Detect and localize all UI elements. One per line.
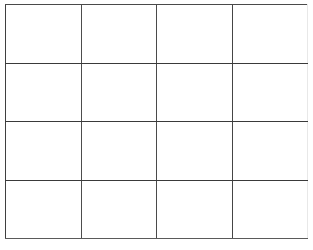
table-cell[interactable]: [232, 180, 308, 239]
table-cell-text: [82, 5, 157, 63]
table-cell[interactable]: [157, 5, 233, 64]
table-cell-text: [6, 181, 81, 239]
table-cell[interactable]: [157, 122, 233, 181]
table-row: [6, 180, 308, 239]
table-cell-text: [82, 122, 157, 180]
table-row: [6, 5, 308, 64]
table-cell[interactable]: [81, 122, 157, 181]
table-cell-text: [233, 122, 308, 180]
page-canvas: [0, 0, 313, 250]
table-cell-text: [233, 181, 308, 239]
table-cell[interactable]: [81, 63, 157, 122]
table-cell[interactable]: [157, 180, 233, 239]
blank-grid-table: [5, 4, 308, 239]
table-cell-text: [82, 181, 157, 239]
table-cell-text: [157, 122, 232, 180]
table-cell[interactable]: [232, 63, 308, 122]
table-cell[interactable]: [157, 63, 233, 122]
table-cell[interactable]: [6, 63, 82, 122]
table-row: [6, 63, 308, 122]
table-cell-text: [157, 64, 232, 122]
table-cell[interactable]: [232, 122, 308, 181]
table-cell[interactable]: [81, 180, 157, 239]
table-cell-text: [157, 181, 232, 239]
table-body: [6, 5, 308, 239]
table-cell[interactable]: [6, 5, 82, 64]
table-cell-text: [233, 5, 308, 63]
table-cell[interactable]: [6, 180, 82, 239]
table-row: [6, 122, 308, 181]
table-cell-text: [6, 5, 81, 63]
table-cell-text: [82, 64, 157, 122]
table-cell-text: [6, 122, 81, 180]
table-cell[interactable]: [6, 122, 82, 181]
table-cell-text: [157, 5, 232, 63]
table-cell-text: [233, 64, 308, 122]
table-cell[interactable]: [232, 5, 308, 64]
table-cell[interactable]: [81, 5, 157, 64]
table-cell-text: [6, 64, 81, 122]
